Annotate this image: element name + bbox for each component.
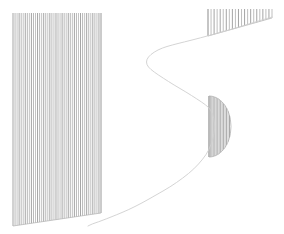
hatched-region-plot [0,0,284,234]
figure-canvas [0,0,284,234]
plot-background [0,0,284,234]
